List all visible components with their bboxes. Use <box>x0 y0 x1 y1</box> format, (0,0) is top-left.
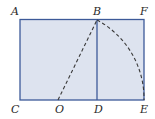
label-A: A <box>10 5 19 18</box>
outer-rectangle-ACEF <box>20 20 144 101</box>
label-F: F <box>139 5 148 18</box>
label-O: O <box>55 103 64 116</box>
label-C: C <box>11 103 20 116</box>
label-E: E <box>139 103 148 116</box>
golden-rectangle-diagram: A B F C O D E <box>0 0 155 119</box>
label-D: D <box>93 103 103 116</box>
label-B: B <box>92 5 101 18</box>
